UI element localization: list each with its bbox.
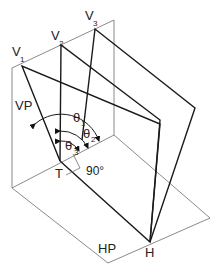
right-angle-marker [66,154,80,175]
inclined-plane-3 [82,29,195,242]
label-h: H [145,245,154,260]
label-right-angle: 90° [86,164,104,178]
projection-diagram: V 1 V 2 V 3 VP HP T H θ 1 θ 2 θ 3 90° [0,0,221,276]
label-theta1: θ [73,110,80,125]
label-theta3-sub: 3 [74,148,79,157]
label-theta2-sub: 2 [91,135,96,144]
label-theta2: θ [83,126,90,141]
inclined-plane-1 [22,66,160,242]
inclined-plane-2 [60,45,160,242]
label-theta3: θ [65,138,72,153]
label-hp: HP [98,241,116,256]
label-t: T [55,166,63,181]
label-v3-sub: 3 [93,19,98,28]
label-vp: VP [15,98,32,113]
diagram-canvas: V 1 V 2 V 3 VP HP T H θ 1 θ 2 θ 3 90° [0,0,221,276]
label-v2-sub: 2 [59,39,64,48]
label-v1-sub: 1 [20,55,25,64]
